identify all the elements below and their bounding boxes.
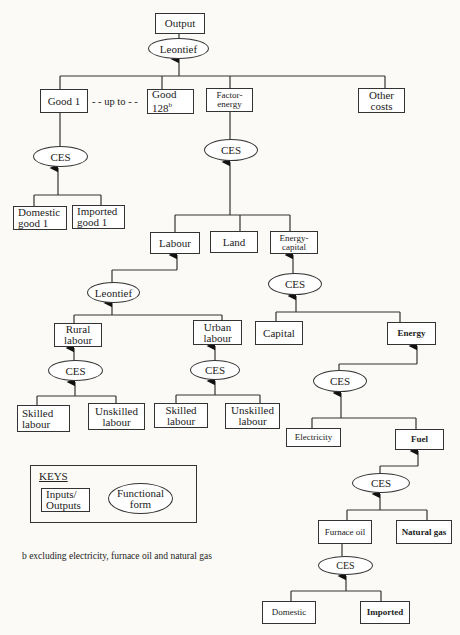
good1-node: Good 1	[40, 89, 88, 113]
leontief-labour: Leontief	[87, 282, 140, 303]
keys-legend: KEYS Inputs/ Outputs Functional form	[30, 465, 197, 523]
ces-energy-capital: CES	[268, 273, 322, 295]
natural-gas-label: Natural gas	[402, 528, 447, 537]
furnace-oil-label: Furnace oil	[325, 528, 366, 537]
furnace-oil-node: Furnace oil	[318, 520, 372, 544]
skilled-labour-label: Skilled labour	[157, 405, 205, 427]
energy-node: Energy	[387, 322, 436, 345]
legend-box-sample: Inputs/ Outputs	[41, 488, 90, 512]
ces-label: CES	[205, 364, 225, 376]
ces-urban: CES	[190, 360, 240, 380]
ces-energy: CES	[313, 370, 367, 392]
capital-label: Capital	[263, 328, 295, 339]
upto-label: - - up to - -	[92, 96, 138, 107]
legend-ellipse-label: Functional form	[109, 488, 172, 510]
energy-capital-label: Energy-capital	[273, 234, 315, 252]
electricity-label: Electricity	[295, 433, 332, 442]
labour-node: Labour	[150, 232, 200, 254]
leontief-label: Leontief	[160, 43, 197, 55]
imported-label: Imported	[367, 608, 404, 617]
urban-unskilled-labour-node: Unskilled labour	[225, 403, 280, 429]
leontief-function-top: Leontief	[148, 38, 209, 59]
rural-labour-node: Rural labour	[54, 323, 102, 347]
other-costs-label: Other costs	[361, 90, 402, 112]
ces-label: CES	[285, 278, 305, 290]
ces-fuel: CES	[352, 473, 410, 493]
leontief-label: Leontief	[95, 287, 132, 299]
furnace-imported-node: Imported	[360, 601, 410, 624]
domestic-label: Domestic	[272, 608, 307, 617]
rural-skilled-labour-node: Skilled labour	[17, 405, 70, 432]
output-node: Output	[155, 13, 205, 34]
land-label: Land	[223, 237, 246, 248]
ces-label: CES	[336, 560, 354, 571]
ces-furnace-oil: CES	[318, 556, 373, 575]
factor-energy-label: Factor-energy	[209, 91, 250, 109]
footnote: b excluding electricity, furnace oil and…	[22, 551, 212, 561]
keys-title: KEYS	[39, 470, 68, 482]
ces-label: CES	[50, 151, 70, 163]
fuel-node: Fuel	[395, 429, 444, 450]
domestic-good1-node: Domestic good 1	[13, 206, 67, 230]
furnace-domestic-node: Domestic	[262, 601, 316, 624]
rural-labour-label: Rural labour	[57, 324, 99, 346]
capital-node: Capital	[255, 321, 303, 345]
natural-gas-node: Natural gas	[396, 520, 452, 544]
imported-good1-label: Imported good 1	[77, 206, 122, 228]
land-node: Land	[210, 231, 258, 253]
energy-label: Energy	[398, 329, 426, 338]
ces-label: CES	[221, 144, 241, 156]
urban-skilled-labour-node: Skilled labour	[154, 403, 208, 428]
ces-label: CES	[65, 365, 85, 377]
legend-ellipse-sample: Functional form	[108, 483, 173, 514]
ces-label: CES	[371, 477, 391, 489]
rural-unskilled-labour-node: Unskilled labour	[88, 403, 145, 430]
imported-good1-node: Imported good 1	[72, 205, 125, 229]
fuel-label: Fuel	[411, 435, 428, 444]
ces-factor-energy: CES	[204, 139, 258, 161]
ces-rural: CES	[48, 360, 103, 381]
labour-label: Labour	[159, 238, 191, 249]
urban-labour-label: Urban labour	[196, 322, 239, 344]
output-label: Output	[165, 18, 196, 29]
good128-label: Good 128b	[152, 89, 191, 114]
unskilled-labour-label: Unskilled labour	[228, 405, 277, 427]
ces-label: CES	[330, 375, 350, 387]
good128-node: Good 128b	[147, 89, 194, 114]
factor-energy-node: Factor-energy	[206, 88, 253, 112]
good1-label: Good 1	[48, 96, 81, 107]
legend-box-label: Inputs/ Outputs	[46, 489, 87, 511]
urban-labour-node: Urban labour	[193, 320, 242, 345]
domestic-good1-label: Domestic good 1	[18, 207, 64, 229]
unskilled-labour-label: Unskilled labour	[91, 406, 142, 428]
electricity-node: Electricity	[286, 428, 341, 447]
energy-capital-node: Energy-capital	[270, 231, 318, 254]
other-costs-node: Other costs	[358, 88, 405, 113]
skilled-labour-label: Skilled labour	[22, 408, 67, 430]
ces-good1: CES	[33, 146, 88, 167]
